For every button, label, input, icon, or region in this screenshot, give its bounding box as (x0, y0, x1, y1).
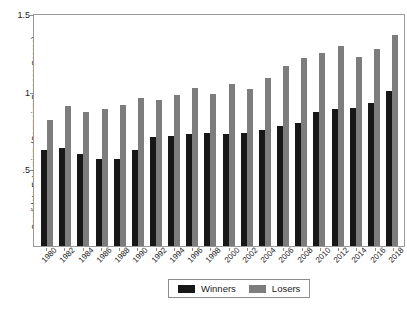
bar-group (74, 15, 92, 246)
bar-losers-1986 (102, 109, 108, 246)
x-tick: 2018 (384, 248, 402, 290)
bar-group (347, 15, 365, 246)
bar-losers-2000 (229, 84, 235, 246)
legend-item-winners: Winners (178, 283, 236, 294)
bar-losers-1992 (156, 100, 162, 246)
legend-item-losers: Losers (249, 283, 301, 294)
y-tick-label: 1 (6, 88, 30, 98)
bar-group (183, 15, 201, 246)
bar-losers-2016 (374, 49, 380, 246)
chart-legend: WinnersLosers (168, 279, 310, 298)
bar-group (310, 15, 328, 246)
bar-losers-2008 (301, 58, 307, 246)
legend-label: Winners (201, 283, 236, 294)
bar-losers-2014 (356, 57, 362, 247)
bar-group (365, 15, 383, 246)
bar-group (329, 15, 347, 246)
y-tick-label: .5 (6, 165, 30, 175)
x-tick: 2016 (366, 248, 384, 290)
legend-swatch-losers (249, 285, 266, 293)
x-tick: 1988 (110, 248, 128, 290)
bar-losers-2002 (247, 89, 253, 246)
bar-losers-2010 (319, 53, 325, 246)
x-tick: 2012 (329, 248, 347, 290)
bar-group (165, 15, 183, 246)
bar-losers-2012 (338, 46, 344, 246)
bar-losers-1980 (47, 120, 53, 246)
bar-losers-1988 (120, 105, 126, 246)
x-tick: 2010 (311, 248, 329, 290)
bar-group (111, 15, 129, 246)
bar-losers-1984 (83, 112, 89, 246)
x-tick: 2014 (347, 248, 365, 290)
y-tick-label: 1.5 (6, 10, 30, 20)
bar-group (147, 15, 165, 246)
x-tick: 1980 (37, 248, 55, 290)
bar-group (238, 15, 256, 246)
bar-group (92, 15, 110, 246)
bar-losers-1996 (192, 88, 198, 246)
bar-group (292, 15, 310, 246)
bar-group (383, 15, 401, 246)
x-tick: 1992 (147, 248, 165, 290)
legend-label: Losers (272, 283, 301, 294)
bar-losers-2004 (265, 78, 271, 246)
legend-swatch-winners (178, 285, 195, 293)
bar-losers-2006 (283, 66, 289, 246)
x-tick-label: 2018 (387, 246, 406, 265)
bar-group (129, 15, 147, 246)
x-tick: 1982 (55, 248, 73, 290)
bar-chart: Candidate Extremism (Campaign Finance Sc… (0, 0, 407, 311)
x-tick: 1986 (92, 248, 110, 290)
bar-losers-1990 (138, 98, 144, 246)
bar-group (38, 15, 56, 246)
bar-losers-2018 (392, 35, 398, 246)
bar-group (56, 15, 74, 246)
bar-losers-1994 (174, 95, 180, 246)
plot-area: .511.5 (33, 14, 405, 247)
x-tick: 1984 (74, 248, 92, 290)
bar-groups (34, 15, 404, 246)
bar-group (256, 15, 274, 246)
bar-losers-1982 (65, 106, 71, 246)
bar-group (220, 15, 238, 246)
bar-group (274, 15, 292, 246)
bar-losers-1998 (210, 94, 216, 246)
x-tick: 1990 (128, 248, 146, 290)
bar-group (201, 15, 219, 246)
